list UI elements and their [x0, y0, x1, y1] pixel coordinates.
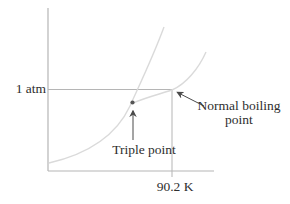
triple-point-dot [130, 100, 134, 104]
temperature-ref-label: 90.2 K [145, 180, 205, 194]
triple-point-label: Triple point [104, 143, 184, 157]
pressure-ref-label: 1 atm [8, 82, 46, 96]
vaporization-curve [133, 52, 206, 103]
normal-boiling-point-label: Normal boiling point [197, 99, 281, 127]
phase-diagram: 1 atm Normal boiling point Triple point … [0, 0, 290, 204]
